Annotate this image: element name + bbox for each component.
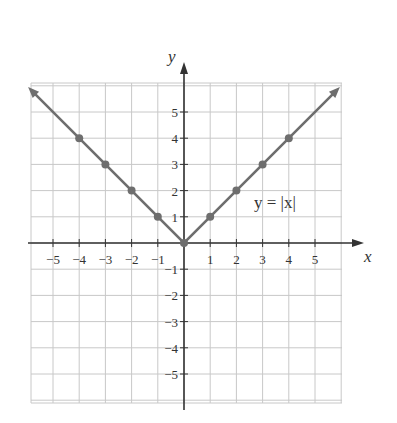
y-tick-label: 3 — [172, 157, 179, 172]
x-tick-label: −5 — [46, 252, 60, 267]
x-tick-label: −2 — [125, 252, 139, 267]
y-tick-label: −4 — [164, 341, 178, 356]
y-tick-label: −1 — [164, 262, 178, 277]
x-tick-label: −1 — [151, 252, 165, 267]
x-tick-label: 1 — [207, 252, 214, 267]
y-tick-label: 2 — [172, 184, 179, 199]
y-axis-arrow-icon — [180, 62, 188, 74]
data-point — [285, 134, 293, 142]
x-tick-label: 5 — [312, 252, 319, 267]
data-point — [101, 160, 109, 168]
y-tick-label: −5 — [164, 367, 178, 382]
y-tick-label: 4 — [172, 131, 179, 146]
y-axis-label: y — [166, 47, 176, 66]
data-point — [154, 213, 162, 221]
x-axis-arrow-icon — [352, 239, 364, 247]
data-point — [75, 134, 83, 142]
y-tick-label: 5 — [172, 105, 179, 120]
y-tick-label: −2 — [164, 288, 178, 303]
y-tick-label: −3 — [164, 315, 178, 330]
x-tick-label: −3 — [98, 252, 112, 267]
x-axis-label: x — [363, 247, 372, 266]
data-point — [206, 213, 214, 221]
x-tick-label: 2 — [233, 252, 240, 267]
x-tick-label: 4 — [286, 252, 293, 267]
absolute-value-graph: −5−4−3−2−112345−5−4−3−2−112345 y x y = |… — [0, 0, 397, 423]
data-point — [128, 187, 136, 195]
x-tick-label: 3 — [259, 252, 266, 267]
y-tick-label: 1 — [172, 210, 179, 225]
data-point — [180, 239, 188, 247]
data-point — [259, 160, 267, 168]
data-point — [232, 187, 240, 195]
x-tick-label: −4 — [72, 252, 86, 267]
equation-label: y = |x| — [254, 193, 296, 212]
